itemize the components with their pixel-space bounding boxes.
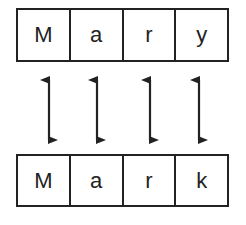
- bottom-letter-cell: a: [71, 156, 124, 205]
- bottom-word-row: M a r k: [16, 154, 229, 207]
- bottom-letter-cell: r: [124, 156, 177, 205]
- bottom-letter-cell: k: [176, 156, 227, 205]
- bottom-letter-cell: M: [18, 156, 71, 205]
